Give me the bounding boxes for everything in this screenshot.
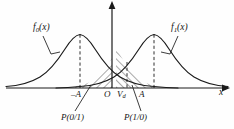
probability-label-p10: P(1/0) — [124, 113, 147, 122]
tick-label-positive-amplitude: A — [139, 90, 145, 99]
leader-line-f1 — [161, 36, 178, 54]
axis-label-origin: O — [104, 90, 111, 99]
binary-detection-figure: f0(x) f1(x) –A O Vd A x P(0/1) P(1/0) — [0, 0, 234, 129]
tick-label-negative-amplitude: –A — [71, 90, 81, 99]
leader-line-f0 — [43, 36, 60, 54]
density-curve-f1 — [56, 35, 228, 89]
figure-canvas — [0, 0, 234, 129]
density-curve-f0 — [6, 35, 178, 89]
density-label-f1-arg: (x) — [177, 22, 188, 32]
probability-label-p01: P(0/1) — [61, 113, 84, 122]
y-axis-arrowhead — [109, 1, 116, 9]
density-label-f0: f0(x) — [33, 23, 50, 33]
density-label-f1: f1(x) — [171, 23, 188, 33]
tick-label-threshold: Vd — [117, 90, 126, 100]
density-label-f0-arg: (x) — [39, 22, 50, 32]
axis-label-x: x — [219, 88, 223, 98]
tick-label-threshold-subscript: d — [123, 92, 126, 99]
